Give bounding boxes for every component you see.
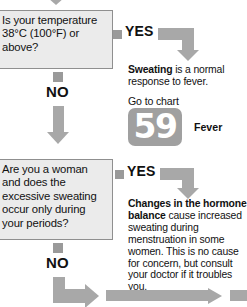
entry-arrow-head bbox=[48, 0, 64, 5]
yes-label-periods: YES bbox=[127, 163, 156, 179]
no-arrow-elbow-bar bbox=[53, 289, 88, 303]
no-arrow-head-icon bbox=[85, 284, 99, 307]
question-box-periods[interactable]: Are you a woman and does the excessive s… bbox=[0, 159, 113, 240]
chart-name-label: Fever bbox=[194, 121, 222, 133]
goto-chart-label: Go to chart bbox=[128, 95, 247, 107]
flowchart-page: Is your temperature 38°C (100°F) or abov… bbox=[0, 0, 247, 307]
entry-arrow-icon bbox=[48, 0, 64, 6]
chart-number-badge: 59 bbox=[128, 108, 182, 146]
no-connector-square-icon bbox=[53, 243, 63, 253]
no-branch-fever[interactable]: NO bbox=[37, 72, 87, 150]
yes-branch-fever[interactable]: YES bbox=[113, 22, 213, 66]
continuation-arrow-head-icon bbox=[208, 288, 222, 304]
yes-arrow-vertical-bar bbox=[182, 28, 194, 52]
question-box-fever[interactable]: Is your temperature 38°C (100°F) or abov… bbox=[0, 10, 113, 69]
answer-panel-fever: Sweating is a normal response to fever. … bbox=[128, 64, 247, 107]
no-label-periods: NO bbox=[46, 254, 69, 271]
answer-text-fever: Sweating is a normal response to fever. bbox=[128, 64, 247, 88]
continuation-arrow bbox=[106, 288, 247, 303]
yes-connector-square-icon bbox=[115, 170, 124, 179]
yes-arrow-vertical-bar bbox=[182, 168, 194, 190]
no-arrow-head-icon bbox=[47, 132, 69, 144]
no-label-fever: NO bbox=[46, 83, 69, 100]
answer-lead-fever: Sweating bbox=[128, 64, 172, 75]
continuation-arrow-shaft bbox=[106, 290, 210, 301]
chart-reference-59[interactable]: 59 Fever bbox=[128, 108, 222, 146]
no-connector-square-icon bbox=[53, 72, 63, 82]
continuation-connector-square-icon bbox=[230, 290, 247, 301]
question-text-periods: Are you a woman and does the excessive s… bbox=[2, 163, 108, 230]
yes-arrow-head-icon bbox=[177, 50, 199, 61]
yes-label-fever: YES bbox=[125, 23, 154, 39]
question-text-fever: Is your temperature 38°C (100°F) or abov… bbox=[2, 14, 108, 54]
yes-connector-square-icon bbox=[113, 30, 122, 39]
no-arrow-shaft bbox=[53, 106, 64, 134]
